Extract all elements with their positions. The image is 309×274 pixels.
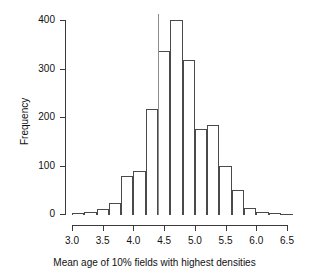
histogram-bar [219, 166, 231, 216]
x-axis-tick [287, 226, 288, 231]
x-axis-tick [72, 226, 73, 231]
histogram-bar [158, 51, 170, 215]
histogram-bar [244, 208, 256, 215]
histogram-bar [146, 109, 158, 215]
x-axis-tick [133, 226, 134, 231]
histogram-bar [183, 60, 195, 215]
y-axis-tick-label: 300 [0, 64, 55, 74]
histogram-bar [232, 190, 244, 215]
y-axis-tick [60, 20, 65, 21]
histogram-bar [72, 213, 84, 215]
x-axis-tick-label: 4.0 [118, 236, 148, 246]
x-axis-tick-label: 6.0 [241, 236, 271, 246]
y-axis-tick-label: 0 [0, 209, 55, 219]
x-axis-label: Mean age of 10% fields with highest dens… [0, 257, 309, 268]
x-axis-tick-label: 3.5 [88, 236, 118, 246]
vertical-reference-line [158, 14, 159, 215]
histogram-bar [269, 213, 281, 215]
histogram-bar [256, 212, 268, 215]
x-axis-tick-label: 3.0 [57, 236, 87, 246]
x-axis-tick-label: 4.5 [149, 236, 179, 246]
x-axis-tick-label: 5.5 [211, 236, 241, 246]
y-axis-tick [60, 69, 65, 70]
x-axis-tick [164, 226, 165, 231]
histogram-bar [109, 203, 121, 215]
histogram-bar [121, 176, 133, 215]
histogram-bar [133, 171, 145, 215]
histogram-bar [207, 125, 219, 215]
x-axis-tick [226, 226, 227, 231]
y-axis-tick [60, 214, 65, 215]
x-axis-tick [103, 226, 104, 231]
y-axis-tick-label: 400 [0, 15, 55, 25]
y-axis-line [65, 20, 66, 215]
histogram-bar [281, 214, 293, 215]
histogram-bar [195, 129, 207, 215]
y-axis-tick [60, 166, 65, 167]
y-axis-tick-label: 100 [0, 161, 55, 171]
x-axis-tick [256, 226, 257, 231]
x-axis-tick [195, 226, 196, 231]
y-axis-label: Frequency [20, 98, 30, 145]
histogram-bar [97, 209, 109, 215]
histogram-bar [84, 212, 96, 215]
histogram-chart: 0100200300400 3.03.54.04.55.05.56.06.5 F… [0, 0, 309, 274]
y-axis-tick [60, 117, 65, 118]
x-axis-tick-label: 6.5 [272, 236, 302, 246]
x-axis-tick-label: 5.0 [180, 236, 210, 246]
histogram-bar [170, 20, 182, 215]
